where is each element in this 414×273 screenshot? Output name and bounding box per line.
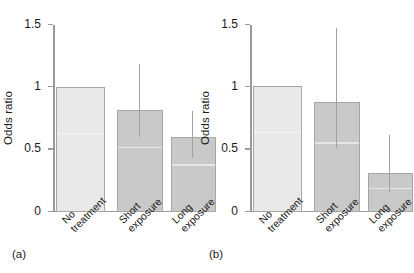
errorbar-long-exposure	[192, 111, 193, 158]
errorbar-long-exposure	[389, 135, 390, 192]
y-tick-label-0: 0	[34, 204, 41, 218]
y-tick-label-3: 1.5	[221, 17, 238, 31]
y-tick-1: 0.5	[245, 148, 250, 149]
y-tick-label-0: 0	[231, 204, 238, 218]
y-tick-0: 0	[245, 211, 250, 212]
y-tick-label-3: 1.5	[24, 17, 41, 31]
plot-area-a: 0 0.5 1 1.5	[53, 25, 191, 212]
y-tick-label-1: 0.5	[24, 141, 41, 155]
errorbar-short-exposure	[139, 64, 140, 138]
y-axis-line	[53, 25, 55, 212]
panel-tag-a: (a)	[12, 248, 26, 260]
panel-a: Odds ratio 0 0.5 1 1.5 No treatm	[0, 0, 197, 273]
panel-b: Odds ratio 0 0.5 1 1.5 No treatm	[197, 0, 394, 273]
y-tick-2: 1	[245, 86, 250, 87]
plot-area-b: 0 0.5 1 1.5	[250, 25, 388, 212]
y-tick-2: 1	[48, 86, 53, 87]
y-axis-label: Odds ratio	[2, 78, 16, 158]
y-tick-label-1: 0.5	[221, 141, 238, 155]
errorbar-short-exposure	[336, 28, 337, 149]
y-tick-label-2: 1	[231, 79, 238, 93]
y-tick-3: 1.5	[245, 24, 250, 25]
y-tick-1: 0.5	[48, 148, 53, 149]
y-tick-0: 0	[48, 211, 53, 212]
y-tick-3: 1.5	[48, 24, 53, 25]
y-tick-label-2: 1	[34, 79, 41, 93]
panel-tag-b: (b)	[209, 248, 223, 260]
y-axis-line	[250, 25, 252, 212]
y-axis-label: Odds ratio	[199, 78, 213, 158]
